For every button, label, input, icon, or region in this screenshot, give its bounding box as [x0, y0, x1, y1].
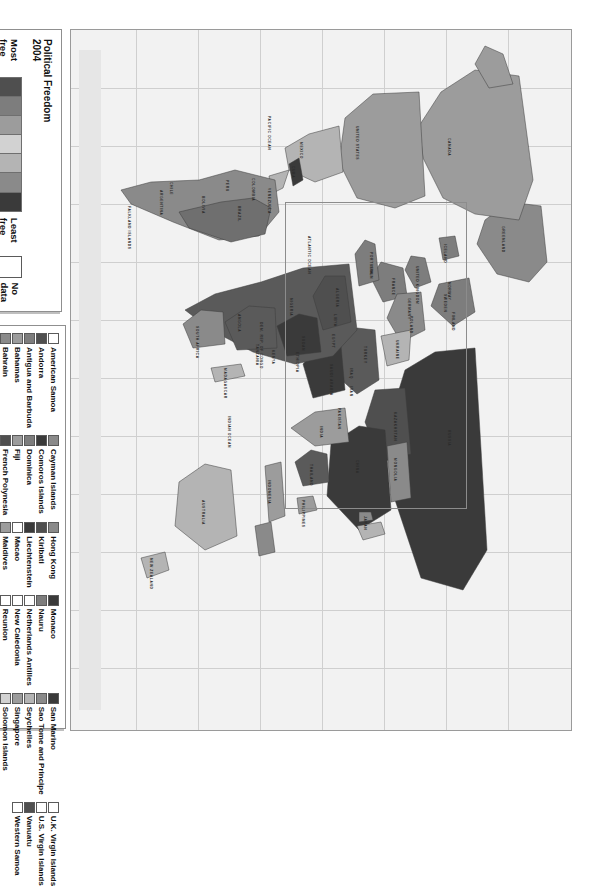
territory-label: Fiji	[13, 448, 22, 460]
territory-legend-item: U.K. Virgin Islands	[48, 801, 59, 886]
territory-legend-item: New Caledonia	[12, 594, 23, 685]
map-label: MEXICO	[299, 142, 303, 159]
territory-swatch	[48, 594, 59, 605]
territory-label: Dominica	[25, 448, 34, 484]
territory-legend-item: Macao	[12, 522, 23, 588]
map-label: INDONESIA	[267, 480, 271, 504]
territory-legend-item: Singapore	[12, 692, 23, 794]
territory-legend-item: Comoros Islands	[36, 434, 47, 514]
territory-swatch	[48, 522, 59, 533]
europe-inset-box	[285, 202, 467, 509]
map-label: MONGOLIA	[393, 458, 397, 481]
territory-legend-item: San Marino	[48, 692, 59, 794]
territory-label: Nauru	[37, 608, 46, 631]
territory-swatch	[24, 434, 35, 445]
territory-swatch	[36, 594, 47, 605]
map-label: ARGENTINA	[159, 190, 163, 216]
map-label: CANADA	[447, 138, 451, 156]
map-label: ANGOLA	[237, 314, 241, 332]
territory-label: Bahamas	[13, 347, 22, 383]
territory-legend-item: Liechtenstein	[24, 522, 35, 588]
map-label: INDIAN OCEAN	[227, 416, 231, 448]
map-label: THAILAND	[309, 464, 313, 486]
territory-swatch	[36, 434, 47, 445]
map-label: SWEDEN	[443, 294, 447, 312]
map-label: FALKLAND ISLANDS	[127, 206, 131, 250]
world-map[interactable]: CANADAUNITED STATESMEXICOGREENLANDBRAZIL…	[70, 29, 572, 731]
territory-swatch	[24, 801, 35, 812]
map-label: ICELAND	[443, 244, 447, 263]
legend-ramp-swatch-4	[0, 154, 21, 173]
territory-legend-column-2: Hong KongKiribatiLiechtensteinMacaoMaldi…	[0, 522, 59, 588]
legend-no-data-label: No data	[0, 282, 21, 302]
map-label: TURKEY	[363, 346, 367, 364]
territory-swatch	[24, 333, 35, 344]
map-label: JAPAN	[363, 516, 367, 530]
map-label: KAZAKHSTAN	[393, 412, 397, 441]
map-label: CUBA	[291, 166, 295, 178]
territory-legend-item: Andorra	[36, 333, 47, 428]
territory-label: Netherlands Antilles	[25, 608, 34, 685]
page-sheet: CANADAUNITED STATESMEXICOGREENLANDBRAZIL…	[22, 13, 582, 803]
territory-swatch	[24, 594, 35, 605]
map-label: IRAQ	[349, 368, 353, 379]
territory-label: Reunion	[1, 608, 10, 640]
territory-label: Liechtenstein	[25, 536, 34, 588]
territory-legend-item: Bahamas	[12, 333, 23, 428]
territory-label: Hong Kong	[49, 536, 58, 579]
territory-label: Solomon Islands	[1, 706, 10, 770]
territory-swatch	[24, 522, 35, 533]
legend-no-data-swatch	[0, 256, 22, 278]
territory-legend-item: Nauru	[36, 594, 47, 685]
territory-swatch	[0, 594, 11, 605]
territory-label: Western Samoa	[13, 815, 22, 875]
territory-label: Andorra	[37, 347, 46, 378]
map-label: NIGERIA	[289, 298, 293, 316]
map-label: LIBYA	[333, 314, 337, 327]
legend-ramp-swatch-2	[0, 115, 21, 134]
legend-ramp-swatch-1	[0, 96, 21, 115]
territory-legend-column-1: Cayman IslandsComoros IslandsDominicaFij…	[0, 434, 59, 514]
territory-legend-column-4: San MarinoSao Tome and PrincipeSeychelle…	[0, 692, 59, 794]
territory-legend-column-5: U.K. Virgin IslandsU.S. Virgin IslandsVa…	[0, 801, 59, 886]
territory-swatch	[0, 692, 11, 703]
territory-label: Cayman Islands	[49, 448, 58, 509]
map-label: TANZANIA	[255, 344, 259, 366]
map-label: ATLANTIC OCEAN	[307, 236, 311, 274]
map-label: SAUDI ARABIA	[329, 364, 333, 396]
territory-legend-item: Monaco	[48, 594, 59, 685]
map-label: ETHIOPIA	[295, 352, 299, 373]
territory-swatch	[12, 594, 23, 605]
territory-legend-item: Netherlands Antilles	[24, 594, 35, 685]
territory-legend-item: Cayman Islands	[48, 434, 59, 514]
territory-swatch	[48, 801, 59, 812]
map-label: RUSSIA	[447, 430, 451, 446]
map-label: PAKISTAN	[337, 408, 341, 430]
map-label: BRAZIL	[237, 206, 241, 222]
territory-legend-item: Antigua and Barbuda	[24, 333, 35, 428]
legend-ramp-swatch-3	[0, 135, 21, 154]
territory-legend-item: Hong Kong	[48, 522, 59, 588]
map-label: FRANCE	[391, 278, 395, 296]
territory-legend-column-0: American SamoaAndorraAntigua and Barbuda…	[0, 333, 59, 428]
legend-most-free-label: Most free	[0, 39, 20, 71]
territory-label: Seychelles	[25, 706, 34, 747]
territory-legend-item: Vanuatu	[24, 801, 35, 886]
map-label: MADAGASCAR	[223, 368, 227, 399]
territory-swatch	[0, 333, 11, 344]
map-label: CHINA	[355, 460, 359, 474]
map-label: NEW ZEALAND	[149, 558, 153, 590]
territory-legend-item: American Samoa	[48, 333, 59, 428]
map-label: INDIA	[319, 426, 323, 438]
territory-label: U.S. Virgin Islands	[37, 815, 46, 885]
territory-legend-item: French Polynesia	[0, 434, 11, 514]
territory-legend-item: Solomon Islands	[0, 692, 11, 794]
territory-swatch	[36, 692, 47, 703]
map-label: UNITED STATES	[355, 126, 359, 160]
territory-swatch	[24, 692, 35, 703]
territory-swatch	[48, 333, 59, 344]
map-label: PERU	[225, 180, 229, 192]
map-label: GREENLAND	[501, 226, 505, 253]
map-label: DEM. REP. OF CONGO	[259, 322, 263, 369]
